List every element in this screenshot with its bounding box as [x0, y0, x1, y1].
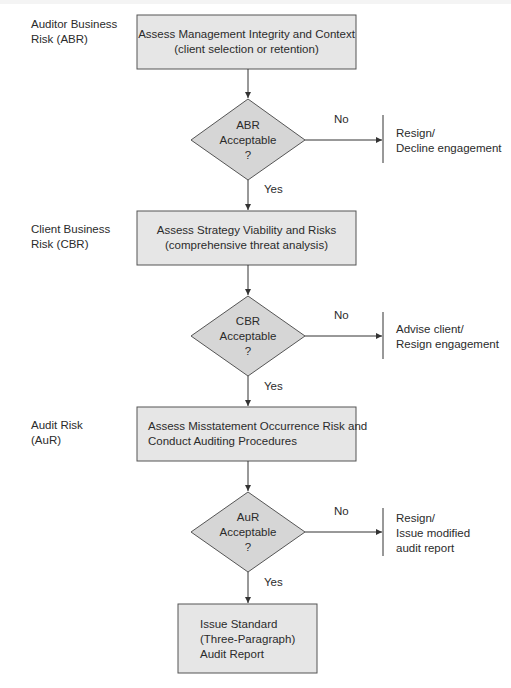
risk-label-aur: Audit Risk (AuR): [31, 418, 83, 448]
risk-label-line: Audit Risk: [31, 418, 83, 433]
decision-line: ?: [198, 540, 298, 555]
risk-label-line: Risk (ABR): [31, 32, 117, 47]
decision-line: Acceptable: [198, 329, 298, 344]
outcome-text-cbr: Advise client/ Resign engagement: [396, 322, 499, 352]
audit-risk-flowchart: Auditor Business Risk (ABR) Assess Manag…: [0, 0, 511, 688]
process-text-abr: Assess Management Integrity and Context …: [137, 27, 356, 57]
process-text-cbr: Assess Strategy Viability and Risks (com…: [137, 223, 356, 253]
risk-label-cbr: Client Business Risk (CBR): [31, 222, 110, 252]
risk-label-line: Auditor Business: [31, 17, 117, 32]
outcome-line: Resign/: [396, 511, 470, 526]
no-label-abr: No: [334, 112, 349, 127]
decision-text-abr: ABR Acceptable ?: [198, 118, 298, 163]
outcome-line: Advise client/: [396, 322, 499, 337]
decision-line: Acceptable: [198, 525, 298, 540]
outcome-line: Resign engagement: [396, 337, 499, 352]
outcome-line: Resign/: [396, 126, 502, 141]
no-label-aur: No: [334, 504, 349, 519]
risk-label-line: (AuR): [31, 433, 83, 448]
outcome-line: Decline engagement: [396, 141, 502, 156]
final-line: Audit Report: [200, 647, 295, 662]
risk-label-abr: Auditor Business Risk (ABR): [31, 17, 117, 47]
risk-label-line: Client Business: [31, 222, 110, 237]
yes-label-cbr: Yes: [264, 379, 283, 394]
decision-text-aur: AuR Acceptable ?: [198, 510, 298, 555]
final-line: Issue Standard: [200, 617, 295, 632]
outcome-line: Issue modified: [396, 526, 470, 541]
process-line: Assess Strategy Viability and Risks: [137, 223, 356, 238]
yes-label-abr: Yes: [264, 182, 283, 197]
process-line: Conduct Auditing Procedures: [148, 434, 367, 449]
final-line: (Three-Paragraph): [200, 632, 295, 647]
decision-line: ?: [198, 148, 298, 163]
decision-text-cbr: CBR Acceptable ?: [198, 314, 298, 359]
decision-line: Acceptable: [198, 133, 298, 148]
process-line: Assess Management Integrity and Context: [137, 27, 356, 42]
process-text-aur: Assess Misstatement Occurrence Risk and …: [148, 419, 367, 449]
decision-line: ABR: [198, 118, 298, 133]
decision-line: ?: [198, 344, 298, 359]
outcome-line: audit report: [396, 541, 470, 556]
outcome-text-abr: Resign/ Decline engagement: [396, 126, 502, 156]
decision-line: CBR: [198, 314, 298, 329]
outcome-text-aur: Resign/ Issue modified audit report: [396, 511, 470, 556]
decision-line: AuR: [198, 510, 298, 525]
process-line: Assess Misstatement Occurrence Risk and: [148, 419, 367, 434]
process-line: (client selection or retention): [137, 42, 356, 57]
risk-label-line: Risk (CBR): [31, 237, 110, 252]
process-line: (comprehensive threat analysis): [137, 238, 356, 253]
no-label-cbr: No: [334, 308, 349, 323]
yes-label-aur: Yes: [264, 575, 283, 590]
final-report-text: Issue Standard (Three-Paragraph) Audit R…: [200, 617, 295, 662]
